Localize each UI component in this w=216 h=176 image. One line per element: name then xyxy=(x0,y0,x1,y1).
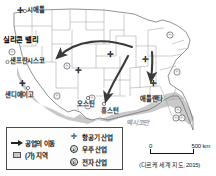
city-label-austin: 오스틴 xyxy=(77,101,94,108)
map-legend: 공업의 이동 (가) 지역 ✛ 항공기 산업 ⓐ 우주 산업 xyxy=(6,127,123,170)
legend-item-industry-movement: 공업의 이동 xyxy=(11,138,63,148)
source-citation: (디르케 세계 지도, 2015) xyxy=(139,160,200,169)
svg-text:ⓑ: ⓑ xyxy=(10,49,14,54)
legend-label-electronics-industry: 전자 산업 xyxy=(82,157,106,167)
legend-item-aircraft-industry: ✛ 항공기 산업 xyxy=(68,132,118,142)
city-dot-san-diego xyxy=(26,86,29,89)
scale-end: 500 km xyxy=(192,143,210,149)
city-dot-san-francisco xyxy=(6,60,9,63)
legend-item-electronics-industry: ⓑ 전자 산업 xyxy=(68,157,118,167)
arrow-to-austin xyxy=(106,56,128,100)
aircraft-symbol-midwest-2: ✛ xyxy=(107,50,114,59)
svg-text:ⓑ: ⓑ xyxy=(55,93,59,98)
legend-item-space-industry: ⓐ 우주 산업 xyxy=(68,144,118,154)
industry-migration-map: ✛ ✛ ✛ ✛ ✛ ✛ ⓑ xyxy=(0,0,216,176)
ocean-label-gulf-of-mexico: 멕시코만 xyxy=(126,120,149,127)
city-dot-houston xyxy=(102,102,105,105)
aircraft-symbol-atlanta: ✛ xyxy=(150,79,157,88)
sunbelt-fill-main xyxy=(16,57,192,126)
map-scale-bar: 0 500 km xyxy=(148,141,210,154)
arrow-icon xyxy=(11,140,22,146)
city-label-atlanta: 애틀랜타 xyxy=(140,96,163,103)
svg-text:ⓐ: ⓐ xyxy=(176,107,180,112)
svg-text:ⓑ: ⓑ xyxy=(65,63,69,68)
scale-values: 0 500 km xyxy=(148,141,210,149)
legend-column-right: ✛ 항공기 산업 ⓐ 우주 산업 ⓑ 전자 산업 xyxy=(68,131,118,167)
aircraft-symbol-midwest: ✛ xyxy=(75,66,82,75)
shaded-box-icon xyxy=(11,152,22,158)
svg-text:ⓑ: ⓑ xyxy=(180,115,184,120)
city-label-san-diego: 샌디에이고 xyxy=(5,92,34,99)
svg-text:ⓐ: ⓐ xyxy=(174,115,178,120)
scale-line-graphic xyxy=(150,149,194,154)
legend-label-industry-movement: 공업의 이동 xyxy=(25,138,55,148)
circled-b-icon: ⓑ xyxy=(68,158,79,166)
legend-label-aircraft-industry: 항공기 산업 xyxy=(82,132,112,142)
svg-text:ⓑ: ⓑ xyxy=(175,69,179,74)
aircraft-icon: ✛ xyxy=(68,133,79,141)
legend-label-region-ga: (가) 지역 xyxy=(25,150,47,160)
region-label-silicon-valley: 실리콘 밸리 xyxy=(3,36,38,44)
aircraft-symbol-seattle: ✛ xyxy=(17,6,24,15)
aircraft-symbol-san-diego: ✛ xyxy=(19,79,26,88)
aircraft-symbol-carolina: ✛ xyxy=(142,55,149,64)
legend-item-region-ga: (가) 지역 xyxy=(11,150,63,160)
arrow-to-san-francisco xyxy=(58,41,132,57)
legend-column-left: 공업의 이동 (가) 지역 xyxy=(11,131,63,167)
city-label-seattle: 시애틀 xyxy=(27,7,44,14)
city-label-san-francisco: 샌프란시스코 xyxy=(10,58,45,65)
svg-text:ⓑ: ⓑ xyxy=(168,32,172,37)
city-label-houston: 휴스턴 xyxy=(101,108,118,115)
circled-a-icon: ⓐ xyxy=(68,145,79,153)
legend-label-space-industry: 우주 산업 xyxy=(82,144,106,154)
